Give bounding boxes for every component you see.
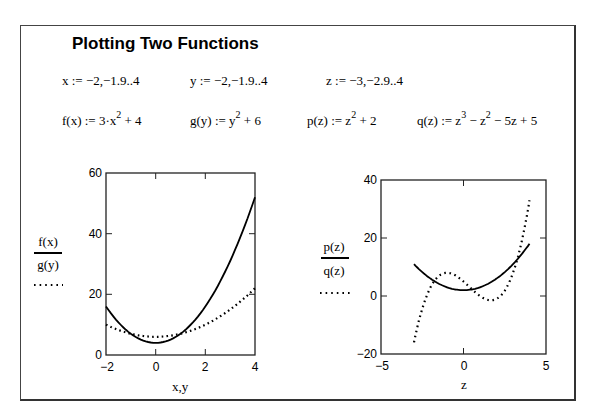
right-plot-frame <box>381 180 546 354</box>
right-ytick-0: 0 <box>370 289 377 303</box>
left-plot: 0 20 40 60 −2 0 2 4 x,y f(x) g(y) <box>34 166 259 394</box>
left-ytick-40: 40 <box>89 227 103 241</box>
left-plot-ticks <box>106 173 255 355</box>
q-curve <box>414 200 530 342</box>
right-ytick-20: 20 <box>364 231 378 245</box>
right-xtick-0: 0 <box>461 359 468 373</box>
left-xtick-m2: −2 <box>100 360 114 374</box>
right-xtick-m5: −5 <box>375 359 389 373</box>
left-legend-g: g(y) <box>37 257 59 272</box>
left-xlabel: x,y <box>172 379 189 394</box>
left-legend-f: f(x) <box>38 234 58 249</box>
f-curve <box>106 197 255 343</box>
right-xlabel: z <box>461 377 467 392</box>
left-ytick-20: 20 <box>89 287 103 301</box>
right-legend-p: p(z) <box>324 239 345 254</box>
p-curve <box>414 244 530 290</box>
right-xtick-5: 5 <box>543 359 550 373</box>
right-ytick-40: 40 <box>364 173 378 187</box>
right-plot: −20 0 20 40 −5 0 5 z p(z) q(z) <box>320 173 550 392</box>
right-legend-q: q(z) <box>324 263 345 278</box>
plots-canvas: 0 20 40 60 −2 0 2 4 x,y f(x) g(y) −20 0 … <box>0 0 591 418</box>
left-xtick-2: 2 <box>202 360 209 374</box>
g-curve <box>106 288 255 337</box>
left-xtick-0: 0 <box>153 360 160 374</box>
left-xtick-4: 4 <box>252 360 259 374</box>
left-ytick-60: 60 <box>89 166 103 180</box>
right-plot-ticks <box>381 180 546 354</box>
left-plot-frame <box>106 173 255 355</box>
